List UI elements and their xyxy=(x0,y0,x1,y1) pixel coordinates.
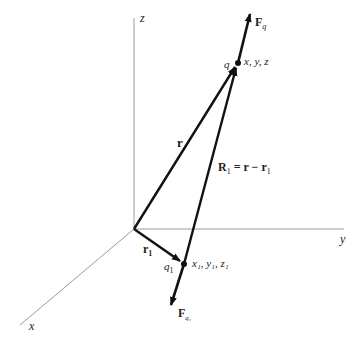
point-q1 xyxy=(181,261,187,267)
point-q xyxy=(235,60,241,66)
z-axis-label: z xyxy=(139,11,145,25)
Fq-label: Fq xyxy=(255,15,266,31)
r-vector xyxy=(134,67,235,229)
R1-equation-label: R1 = r − r1 xyxy=(218,160,271,176)
point-q1-label: q1 xyxy=(164,260,174,275)
y-axis-label: y xyxy=(339,232,346,246)
r1-vector xyxy=(134,229,180,261)
point-q-coords: x, y, z xyxy=(243,55,269,67)
r1-vector-label: r1 xyxy=(143,242,152,258)
coulomb-force-diagram: z y x r r1 R1 = r − r1 Fq Fq₁ q x, y, z … xyxy=(0,0,364,343)
x-axis xyxy=(20,229,134,325)
point-q-label: q xyxy=(224,58,230,70)
R1-vector xyxy=(184,68,236,264)
x-axis-label: x xyxy=(28,319,35,333)
point-q1-coords: x₁, y₁, z₁ xyxy=(191,257,229,269)
Fq1-label: Fq₁ xyxy=(178,306,191,322)
r-vector-label: r xyxy=(177,135,183,150)
